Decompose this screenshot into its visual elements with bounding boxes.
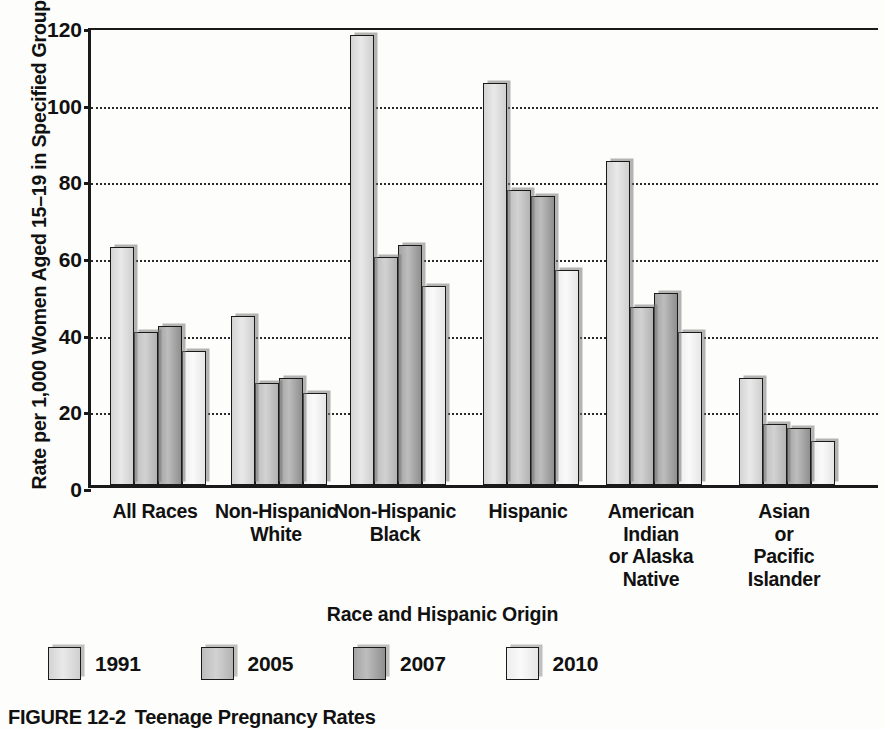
x-category-label-line: Asian xyxy=(681,500,885,523)
bar[interactable] xyxy=(654,293,678,485)
bar[interactable] xyxy=(255,383,279,485)
bar[interactable] xyxy=(422,286,446,485)
y-tick-label: 0 xyxy=(70,478,82,502)
bar[interactable] xyxy=(811,441,835,485)
y-tick-label: 100 xyxy=(47,95,82,119)
x-category-label-line: or xyxy=(681,523,885,546)
bar-group xyxy=(739,30,835,485)
legend-item[interactable]: 2005 xyxy=(201,647,294,680)
bar-group xyxy=(483,30,579,485)
y-tick-mark xyxy=(84,489,91,492)
bar[interactable] xyxy=(182,351,206,485)
bar-group xyxy=(110,30,206,485)
legend-swatch xyxy=(201,647,234,680)
x-category-label: AsianorPacificIslander xyxy=(681,500,885,590)
legend-swatch xyxy=(506,647,539,680)
bar[interactable] xyxy=(279,378,303,485)
bar-group xyxy=(606,30,702,485)
figure-title: Teenage Pregnancy Rates xyxy=(135,706,376,728)
bar[interactable] xyxy=(374,257,398,485)
y-tick-mark xyxy=(84,29,91,32)
bar[interactable] xyxy=(134,332,158,485)
bar[interactable] xyxy=(158,326,182,485)
bar[interactable] xyxy=(531,196,555,485)
bar[interactable] xyxy=(398,245,422,485)
bar[interactable] xyxy=(110,247,134,485)
legend-item[interactable]: 2010 xyxy=(506,647,599,680)
y-tick-mark xyxy=(84,336,91,339)
x-category-label-line: Islander xyxy=(681,568,885,591)
y-tick-mark xyxy=(84,259,91,262)
y-tick-mark xyxy=(84,182,91,185)
bar[interactable] xyxy=(630,307,654,485)
y-tick-mark xyxy=(84,412,91,415)
y-tick-label: 60 xyxy=(59,248,82,272)
legend-item[interactable]: 1991 xyxy=(48,647,141,680)
bar[interactable] xyxy=(507,190,531,485)
legend-label: 1991 xyxy=(95,652,141,676)
y-tick-label: 20 xyxy=(59,401,82,425)
x-category-label-line: Pacific xyxy=(681,545,885,568)
bar[interactable] xyxy=(739,378,763,485)
bar[interactable] xyxy=(350,35,374,485)
bar[interactable] xyxy=(483,83,507,486)
bar[interactable] xyxy=(303,393,327,485)
bar-group xyxy=(350,30,446,485)
bar[interactable] xyxy=(555,270,579,485)
legend-swatch xyxy=(48,647,81,680)
bar-group xyxy=(231,30,327,485)
y-tick-label: 80 xyxy=(59,171,82,195)
bar[interactable] xyxy=(231,316,255,485)
y-tick-mark xyxy=(84,106,91,109)
legend-label: 2005 xyxy=(248,652,294,676)
legend-swatch xyxy=(353,647,386,680)
x-category-label-line: Black xyxy=(292,523,498,546)
legend-label: 2010 xyxy=(553,652,599,676)
y-tick-label: 40 xyxy=(59,325,82,349)
bar[interactable] xyxy=(606,161,630,485)
x-axis-title: Race and Hispanic Origin xyxy=(0,603,885,626)
bar[interactable] xyxy=(787,428,811,486)
figure-number: FIGURE 12-2 xyxy=(8,706,126,728)
legend-item[interactable]: 2007 xyxy=(353,647,446,680)
figure-caption: FIGURE 12-2Teenage Pregnancy Rates xyxy=(8,706,375,729)
chart-legend: 1991200520072010 xyxy=(48,647,658,680)
bar[interactable] xyxy=(678,332,702,485)
bar[interactable] xyxy=(763,424,787,485)
y-axis-title: Rate per 1,000 Women Aged 15–19 in Speci… xyxy=(28,20,51,490)
plot-area: 020406080100120 xyxy=(88,28,878,488)
legend-label: 2007 xyxy=(400,652,446,676)
y-tick-label: 120 xyxy=(47,18,82,42)
